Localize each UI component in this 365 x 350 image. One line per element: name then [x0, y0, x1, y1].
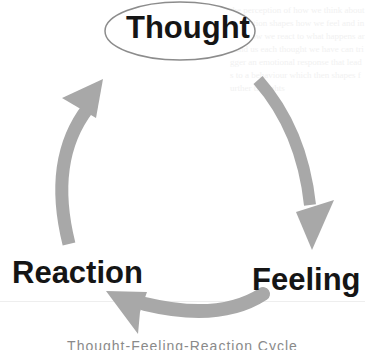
arrow-feeling-to-reaction [106, 291, 263, 334]
arrowhead-left-icon [106, 291, 147, 334]
node-reaction-label: Reaction [12, 255, 143, 291]
node-feeling-label: Feeling [252, 262, 361, 298]
node-thought-label: Thought [126, 10, 250, 46]
figure-caption: Thought-Feeling-Reaction Cycle [0, 338, 365, 350]
arrow-thought-to-feeling [258, 80, 334, 250]
arrow-reaction-to-thought [62, 79, 103, 244]
diagram-canvas: the perception of how we think about a s… [0, 0, 365, 350]
arrowhead-down-icon [296, 200, 334, 250]
